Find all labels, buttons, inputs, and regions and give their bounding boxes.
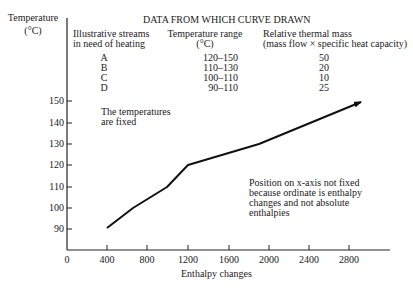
x-tick-label: 400 — [92, 254, 122, 265]
table-header-range-line2: (°C) — [165, 38, 245, 49]
y-axis-label-line2: (°C) — [2, 25, 64, 36]
y-axis-label-line1: Temperature — [2, 12, 64, 23]
x-tick-label: 1600 — [214, 254, 244, 265]
x-tick-label: 1200 — [173, 254, 203, 265]
annotation-fixed-line2: are fixed — [101, 116, 136, 127]
y-tick-label: 130 — [40, 138, 64, 149]
annotation-position-line4: enthalpies — [249, 207, 290, 218]
y-tick-label: 110 — [40, 181, 64, 192]
row-range: 90–110 — [180, 82, 238, 93]
x-tick-label: 800 — [132, 254, 162, 265]
y-tick-label: 120 — [40, 159, 64, 170]
x-tick-label: 2400 — [294, 254, 324, 265]
x-axis-label: Enthalpy changes — [181, 268, 252, 279]
chart-title: DATA FROM WHICH CURVE DRAWN — [143, 14, 310, 25]
x-tick-label: 2000 — [254, 254, 284, 265]
y-tick-label: 100 — [40, 202, 64, 213]
row-mass: 25 — [312, 82, 336, 93]
y-ticks — [67, 101, 72, 229]
table-header-mass-line2: (mass flow × specific heat capacity) — [263, 38, 407, 49]
y-tick-label: 140 — [40, 117, 64, 128]
x-ticks — [107, 245, 349, 250]
x-tick-label: 2800 — [334, 254, 364, 265]
y-tick-label: 150 — [40, 95, 64, 106]
table-header-streams-line2: in need of heating — [73, 38, 145, 49]
x-origin-label: 0 — [57, 254, 77, 265]
y-tick-label: 90 — [40, 223, 64, 234]
heating-curve-line — [107, 102, 361, 228]
row-stream: D — [96, 82, 112, 93]
